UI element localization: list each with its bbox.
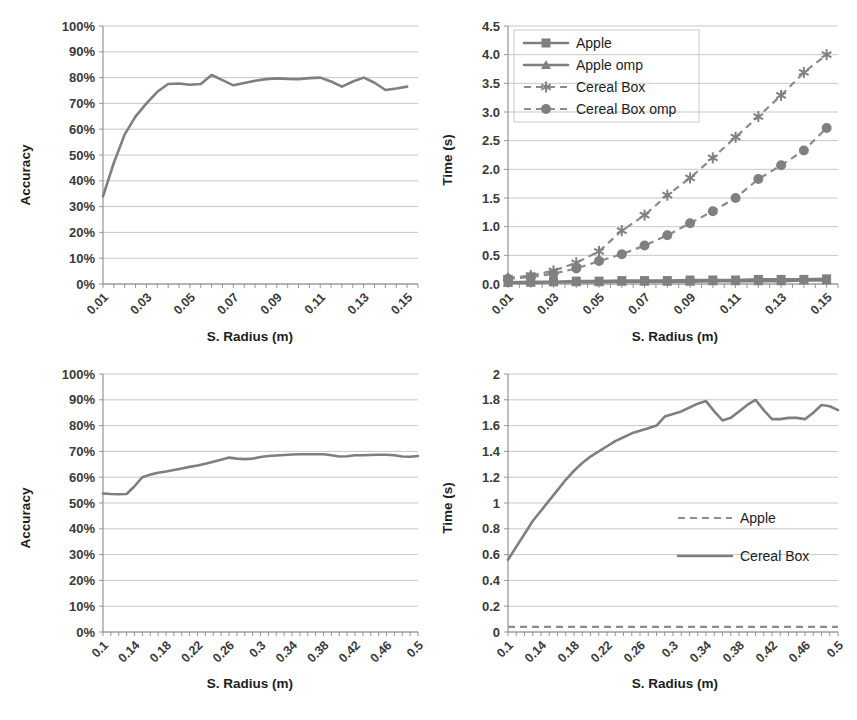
x-tick-labels: 0.10.140.180.220.260.30.340.380.420.460.…: [494, 638, 846, 665]
x-tick-label: 0.03: [535, 290, 562, 317]
chart-svg-accuracy-small-radius: Accuracy 100%90%80%70%60%50%40%30%20%10%…: [0, 0, 430, 360]
marker-circle: [776, 160, 786, 170]
x-tick-label: 0.09: [258, 290, 285, 317]
y-tick-label: 2.0: [482, 162, 500, 177]
y-tick-label: 1.6: [482, 418, 500, 433]
x-tick-label: 0.3: [246, 638, 268, 660]
figure-container: Accuracy 100%90%80%70%60%50%40%30%20%10%…: [0, 0, 857, 720]
marker-circle: [685, 218, 695, 228]
series-group: [508, 400, 838, 627]
y-tick-label: 1.5: [482, 191, 500, 206]
marker-circle: [571, 264, 581, 274]
series-group: [103, 454, 418, 494]
y-axis-title: Accuracy: [18, 144, 33, 205]
y-tick-label: 40%: [69, 173, 95, 188]
x-tick-label: 0.38: [720, 638, 747, 665]
marker-circle: [662, 230, 672, 240]
x-tick-label: 0.18: [147, 638, 174, 665]
chart-svg-accuracy-large-radius: Accuracy 100%90%80%70%60%50%40%30%20%10%…: [0, 358, 430, 720]
x-tick-labels: 0.010.030.050.070.090.110.130.15: [84, 290, 415, 317]
x-tick-label: 0.18: [555, 638, 582, 665]
x-tick-label: 0.07: [214, 290, 241, 317]
y-tick-label: 3.5: [482, 76, 500, 91]
y-tick-label: 30%: [69, 199, 95, 214]
y-tick-label: 0.4: [482, 573, 501, 588]
x-tick-labels: 0.010.030.050.070.090.110.130.15: [489, 290, 835, 317]
y-tick-label: 10%: [69, 251, 95, 266]
x-axis-title: S. Radius (m): [207, 329, 293, 344]
legend-label: Apple: [740, 510, 776, 526]
y-tick-label: 50%: [69, 496, 95, 511]
y-tick-label: 0.6: [482, 547, 500, 562]
x-tick-marks: [103, 632, 418, 636]
x-tick-label: 0.34: [687, 638, 714, 665]
legend-label: Cereal Box omp: [576, 101, 677, 117]
y-tick-label: 20%: [69, 225, 95, 240]
x-tick-marks: [508, 632, 838, 636]
marker-circle: [822, 123, 832, 133]
y-tick-label: 100%: [62, 19, 96, 34]
x-tick-label: 0.13: [345, 290, 372, 317]
x-tick-label: 0.1: [494, 638, 516, 660]
y-tick-label: 4.5: [482, 19, 500, 34]
chart-legend[interactable]: AppleApple ompCereal BoxCereal Box omp: [514, 30, 699, 122]
y-axis-title: Time (s): [440, 482, 455, 534]
legend-item-4[interactable]: Cereal Box omp: [524, 101, 677, 117]
legend-item-1[interactable]: Apple: [678, 510, 776, 526]
y-tick-label: 60%: [69, 122, 95, 137]
chart-svg-time-large-radius: Time (s) 21.81.61.41.210.80.60.40.20 0.1…: [430, 358, 857, 720]
marker-circle: [541, 104, 551, 114]
x-tick-label: 0.11: [302, 290, 329, 317]
x-tick-label: 0.1: [89, 638, 111, 660]
marker-asterisk: [708, 152, 718, 163]
y-tick-label: 0.8: [482, 521, 500, 536]
legend-item-3[interactable]: Cereal Box: [524, 79, 645, 95]
x-axis-title: S. Radius (m): [207, 676, 293, 691]
series-line-1: [103, 454, 418, 494]
y-tick-labels: 4.54.03.53.02.52.01.51.00.50.0: [482, 19, 500, 292]
legend-item-2[interactable]: Apple omp: [524, 57, 643, 73]
marker-asterisk: [754, 111, 764, 122]
marker-circle: [549, 269, 559, 279]
y-tick-label: 80%: [69, 418, 95, 433]
x-tick-label: 0.26: [210, 638, 237, 665]
x-tick-label: 0.15: [388, 290, 415, 317]
legend-label: Apple: [576, 35, 612, 51]
marker-asterisk: [663, 190, 673, 201]
chart-svg-time-small-radius: Time (s) 4.54.03.53.02.52.01.51.00.50.0 …: [430, 0, 857, 360]
y-tick-label: 1.2: [482, 470, 500, 485]
chart-panel-accuracy-small-radius: Accuracy 100%90%80%70%60%50%40%30%20%10%…: [0, 0, 430, 360]
y-tick-labels: 100%90%80%70%60%50%40%30%20%10%0%: [62, 19, 96, 292]
y-tick-label: 70%: [69, 96, 95, 111]
legend-label: Cereal Box: [576, 79, 645, 95]
legend-item-2[interactable]: Cereal Box: [678, 548, 809, 564]
y-tick-label: 3.0: [482, 105, 500, 120]
y-tick-label: 80%: [69, 70, 95, 85]
x-tick-label: 0.38: [305, 638, 332, 665]
legend-item-1[interactable]: Apple: [524, 35, 612, 51]
chart-panel-time-large-radius: Time (s) 21.81.61.41.210.80.60.40.20 0.1…: [430, 358, 857, 720]
marker-circle: [594, 256, 604, 266]
marker-circle: [731, 193, 741, 203]
x-tick-label: 0.26: [621, 638, 648, 665]
y-tick-label: 0.0: [482, 277, 500, 292]
gridlines: [103, 26, 418, 284]
x-tick-labels: 0.10.140.180.220.260.30.340.380.420.460.…: [89, 638, 426, 665]
x-tick-label: 0.42: [753, 638, 780, 665]
marker-square: [542, 39, 551, 48]
legend-label: Apple omp: [576, 57, 643, 73]
marker-circle: [617, 249, 627, 259]
y-tick-label: 60%: [69, 470, 95, 485]
chart-legend[interactable]: AppleCereal Box: [678, 510, 809, 564]
y-tick-label: 70%: [69, 444, 95, 459]
x-tick-label: 0.05: [171, 290, 198, 317]
marker-circle: [640, 241, 650, 251]
y-tick-label: 50%: [69, 148, 95, 163]
x-axis-title: S. Radius (m): [632, 329, 718, 344]
x-tick-label: 0.01: [489, 290, 516, 317]
x-tick-label: 0.09: [671, 290, 698, 317]
x-tick-label: 0.15: [808, 290, 835, 317]
y-tick-label: 90%: [69, 44, 95, 59]
y-tick-label: 100%: [62, 367, 96, 382]
chart-panel-accuracy-large-radius: Accuracy 100%90%80%70%60%50%40%30%20%10%…: [0, 358, 430, 720]
